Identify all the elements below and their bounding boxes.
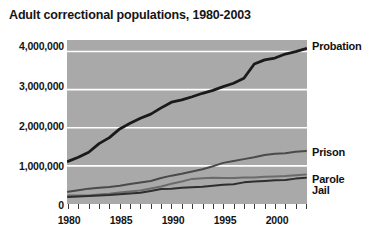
x-tick-label-1990: 1990 <box>162 214 185 226</box>
x-tick-label-2000: 2000 <box>266 214 289 226</box>
x-tick-mark <box>234 204 235 209</box>
x-tick-mark <box>171 204 172 209</box>
x-tick-mark <box>151 204 152 209</box>
plot-area <box>67 40 307 204</box>
y-tick-label-3000000: 3,000,000 <box>19 80 64 92</box>
chart-figure: Adult correctional populations, 1980-200… <box>0 0 382 241</box>
y-axis: 4,000,000 3,000,000 2,000,000 1,000,000 … <box>0 0 64 241</box>
x-tick-mark <box>99 204 100 209</box>
x-tick-mark <box>78 204 79 209</box>
x-tick-mark <box>275 204 276 209</box>
y-tick-label-2000000: 2,000,000 <box>19 120 64 132</box>
series-label-prison: Prison <box>312 146 345 158</box>
y-tick-label-0: 0 <box>58 199 64 211</box>
series-lines <box>68 49 306 197</box>
y-tick-label-1000000: 1,000,000 <box>19 160 64 172</box>
x-tick-mark <box>203 204 204 209</box>
x-tick-mark <box>89 204 90 209</box>
x-axis-tick-marks <box>67 204 307 211</box>
y-tick-label-4000000: 4,000,000 <box>19 40 64 52</box>
x-tick-mark <box>130 204 131 209</box>
x-tick-mark <box>223 204 224 209</box>
x-tick-mark <box>120 204 121 209</box>
series-label-jail: Jail <box>312 184 330 196</box>
x-axis: 1980 1985 1990 1995 2000 <box>0 214 382 232</box>
x-tick-mark <box>285 204 286 209</box>
x-tick-mark <box>213 204 214 209</box>
plot-lines <box>67 40 307 204</box>
x-tick-label-1995: 1995 <box>214 214 237 226</box>
x-tick-mark <box>192 204 193 209</box>
x-tick-mark <box>109 204 110 209</box>
x-tick-mark <box>296 204 297 209</box>
x-tick-mark <box>306 204 307 209</box>
series-line-prison <box>68 151 306 192</box>
x-tick-mark <box>161 204 162 209</box>
x-tick-mark <box>68 204 69 209</box>
series-line-parole <box>68 174 306 195</box>
x-tick-mark <box>265 204 266 209</box>
gridlines <box>67 51 307 165</box>
x-tick-mark <box>140 204 141 209</box>
x-tick-mark <box>182 204 183 209</box>
x-tick-mark <box>254 204 255 209</box>
x-tick-label-1980: 1980 <box>58 214 81 226</box>
x-tick-label-1985: 1985 <box>110 214 133 226</box>
series-line-probation <box>68 49 306 162</box>
series-label-probation: Probation <box>312 40 362 52</box>
x-tick-mark <box>244 204 245 209</box>
